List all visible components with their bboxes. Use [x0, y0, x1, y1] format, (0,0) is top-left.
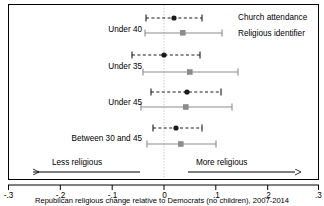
category-label-between-30-and-45: Between 30 and 45 [22, 135, 142, 143]
data-row-religious-under-40 [145, 30, 222, 37]
data-row-church-under-35 [132, 52, 200, 59]
data-point-marker [184, 89, 189, 94]
category-label-under-40: Under 40 [42, 26, 142, 34]
data-row-church-under-45 [151, 89, 221, 96]
legend-item-church-attendance: Church attendance [238, 14, 307, 22]
data-row-church-under-40 [146, 15, 202, 22]
data-point-marker [187, 69, 193, 75]
category-label-under-45: Under 45 [42, 99, 142, 107]
legend-item-religious-identifier: Religious identifier [238, 30, 305, 38]
category-label-under-35: Under 35 [42, 63, 142, 71]
data-row-religious-under-35 [143, 69, 238, 76]
data-point-marker [173, 125, 178, 130]
data-point-marker [183, 104, 189, 110]
data-point-marker [180, 30, 186, 36]
data-row-religious-between-30-and-45 [147, 141, 216, 148]
chart-caption: Republican religious change relative to … [0, 197, 324, 205]
annotation-more-religious: More religious [196, 159, 247, 167]
data-row-church-between-30-and-45 [153, 125, 202, 132]
annotation-less-religious: Less religious [52, 159, 102, 167]
data-point-marker [178, 141, 184, 147]
data-row-religious-under-45 [141, 104, 232, 111]
x-axis-ticks [9, 185, 319, 190]
data-point-marker [171, 15, 176, 20]
chart-figure: Under 40 Under 35 Under 45 Between 30 an… [0, 0, 324, 206]
data-point-marker [161, 52, 166, 57]
